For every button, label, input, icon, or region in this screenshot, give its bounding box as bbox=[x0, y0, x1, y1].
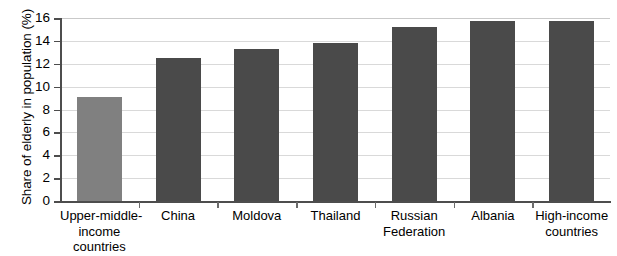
bar-series bbox=[60, 18, 611, 201]
x-axis-category-label-line: Federation bbox=[375, 224, 454, 240]
bar[interactable] bbox=[392, 27, 437, 201]
y-axis-tick-label: 0 bbox=[4, 194, 50, 208]
x-axis-category-label-line: Albania bbox=[454, 208, 533, 224]
y-axis-tick-label: 6 bbox=[4, 125, 50, 139]
x-axis-category-label: High-incomecountries bbox=[532, 208, 611, 239]
y-axis-tick-mark bbox=[54, 41, 61, 43]
y-axis-tick-label: 8 bbox=[4, 103, 50, 117]
y-axis-tick-label: 10 bbox=[4, 80, 50, 94]
y-axis-tick-label: 4 bbox=[4, 148, 50, 162]
x-axis-category-label: China bbox=[139, 208, 218, 224]
y-axis-tick-mark bbox=[54, 87, 61, 89]
x-axis-category-labels: Upper-middle-incomecountriesChinaMoldova… bbox=[60, 208, 611, 256]
x-axis-category-label: RussianFederation bbox=[375, 208, 454, 239]
bar-chart: Share of elderly in population (%) 02468… bbox=[0, 0, 617, 256]
bar[interactable] bbox=[156, 58, 201, 201]
y-axis-tick-labels: 0246810121416 bbox=[0, 18, 50, 201]
x-axis-category-label: Upper-middle-incomecountries bbox=[60, 208, 139, 255]
x-axis-category-label-line: China bbox=[139, 208, 218, 224]
x-axis-category-label-line: Russian bbox=[375, 208, 454, 224]
y-axis-tick-mark bbox=[54, 132, 61, 134]
x-axis-category-label-line: Upper-middle- bbox=[60, 208, 139, 224]
y-axis-tick-mark bbox=[54, 18, 61, 20]
bar[interactable] bbox=[549, 21, 594, 201]
bar[interactable] bbox=[234, 49, 279, 201]
y-axis-tick-label: 16 bbox=[4, 11, 50, 25]
x-axis-category-label: Thailand bbox=[296, 208, 375, 224]
y-axis-tick-mark bbox=[54, 155, 61, 157]
x-axis-category-label-line: income bbox=[60, 224, 139, 240]
x-axis-category-label: Moldova bbox=[217, 208, 296, 224]
y-axis-tick-label: 14 bbox=[4, 34, 50, 48]
bar[interactable] bbox=[77, 97, 122, 201]
bar[interactable] bbox=[313, 43, 358, 201]
y-axis-tick-label: 12 bbox=[4, 57, 50, 71]
x-axis-category-label-line: countries bbox=[60, 239, 139, 255]
y-axis-tick-mark bbox=[54, 64, 61, 66]
y-axis-tick-mark bbox=[54, 178, 61, 180]
bar[interactable] bbox=[470, 21, 515, 201]
x-axis-category-label-line: Moldova bbox=[217, 208, 296, 224]
x-axis-category-label: Albania bbox=[454, 208, 533, 224]
y-axis-tick-mark bbox=[54, 110, 61, 112]
x-axis-category-label-line: High-income bbox=[532, 208, 611, 224]
y-axis-tick-mark bbox=[54, 201, 61, 203]
y-axis-tick-label: 2 bbox=[4, 171, 50, 185]
x-axis-category-label-line: countries bbox=[532, 224, 611, 240]
x-axis-category-label-line: Thailand bbox=[296, 208, 375, 224]
